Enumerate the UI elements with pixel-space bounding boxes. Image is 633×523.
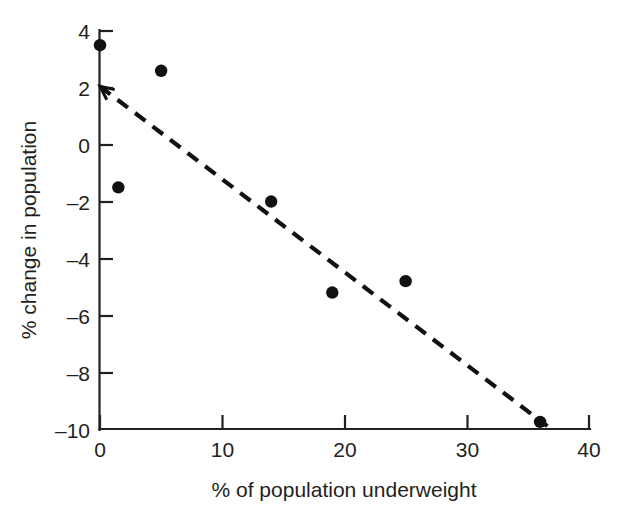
x-axis-ticks xyxy=(100,415,589,429)
data-point xyxy=(534,416,546,428)
y-axis-ticks xyxy=(100,31,114,373)
data-point xyxy=(112,181,124,193)
data-points xyxy=(94,39,547,428)
data-point xyxy=(155,65,167,77)
data-point xyxy=(94,39,106,51)
y-axis-title: % change in population xyxy=(17,121,40,339)
y-tick-label-minus-4: –4 xyxy=(67,248,91,271)
y-axis-tick-labels: 4 2 0 –2 –4 –6 –8 –10 xyxy=(55,20,90,442)
x-axis-title: % of population underweight xyxy=(211,478,476,501)
y-tick-label-minus-8: –8 xyxy=(67,362,90,385)
data-point xyxy=(399,275,411,287)
y-tick-label-minus-2: –2 xyxy=(67,191,90,214)
y-tick-label-0: 0 xyxy=(78,134,90,157)
x-tick-label-10: 10 xyxy=(211,438,234,461)
y-tick-label-minus-6: –6 xyxy=(67,305,90,328)
chart-figure: 4 2 0 –2 –4 –6 –8 –10 0 10 20 30 40 % of… xyxy=(0,0,633,523)
trend-line-group xyxy=(100,86,547,426)
y-tick-label-2: 2 xyxy=(78,77,90,100)
y-tick-label-minus-10: –10 xyxy=(55,419,90,442)
y-tick-label-4: 4 xyxy=(78,20,90,43)
x-tick-label-40: 40 xyxy=(577,438,600,461)
scatter-plot: 4 2 0 –2 –4 –6 –8 –10 0 10 20 30 40 % of… xyxy=(0,0,633,523)
data-point xyxy=(265,195,277,207)
x-tick-label-30: 30 xyxy=(456,438,479,461)
x-tick-label-20: 20 xyxy=(333,438,356,461)
trend-line xyxy=(100,86,547,426)
x-tick-label-0: 0 xyxy=(94,438,106,461)
x-axis-tick-labels: 0 10 20 30 40 xyxy=(94,438,601,461)
data-point xyxy=(326,286,338,298)
